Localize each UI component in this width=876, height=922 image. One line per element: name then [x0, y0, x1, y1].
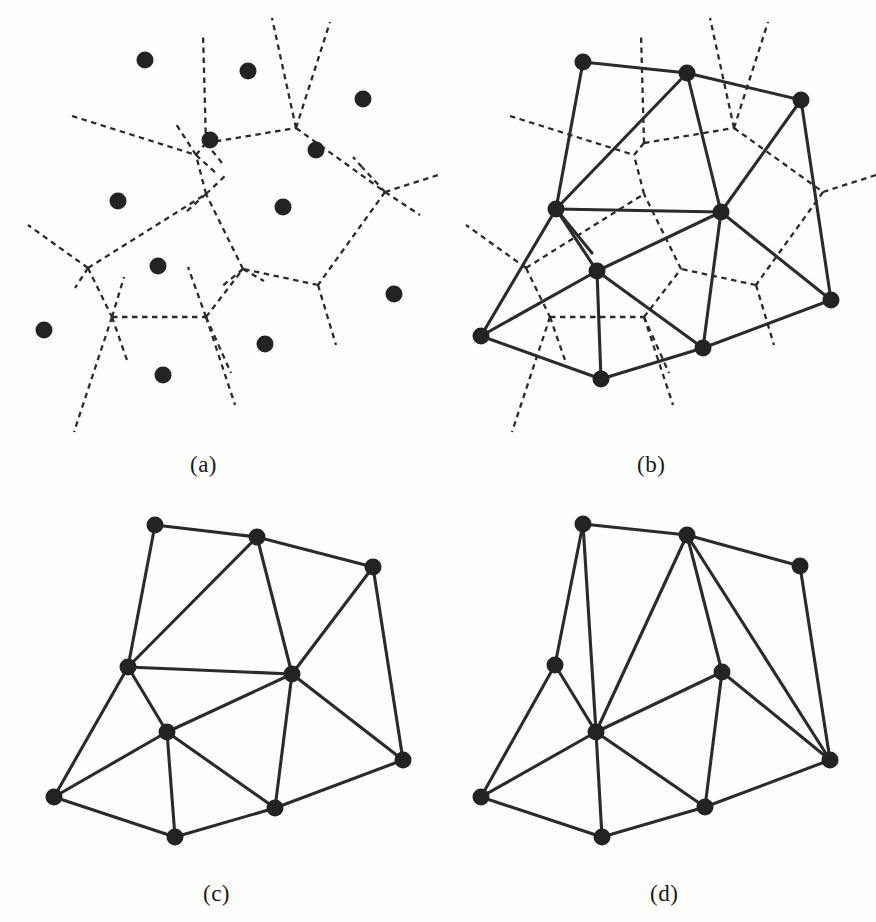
site-point-a-10 [308, 142, 325, 159]
site-point-c-7 [46, 789, 63, 806]
caption-panel-d: (d) [650, 881, 678, 907]
site-point-d-7 [473, 789, 490, 806]
site-point-d-6 [822, 752, 839, 769]
site-point-d-3 [547, 657, 564, 674]
site-point-a-2 [355, 91, 372, 108]
site-point-d-2 [792, 558, 809, 575]
site-point-b-6 [823, 292, 840, 309]
site-point-d-8 [697, 799, 714, 816]
site-point-c-5 [159, 724, 176, 741]
site-point-b-5 [589, 263, 606, 280]
caption-panel-a: (a) [190, 452, 217, 478]
site-point-c-2 [365, 559, 382, 576]
site-point-a-0 [137, 52, 154, 69]
site-point-a-7 [36, 322, 53, 339]
site-point-b-8 [695, 340, 712, 357]
site-point-d-0 [575, 516, 592, 533]
site-point-c-4 [284, 666, 301, 683]
site-point-c-8 [267, 800, 284, 817]
site-point-d-1 [679, 527, 696, 544]
site-point-b-9 [593, 371, 610, 388]
site-point-a-11 [202, 132, 219, 149]
figure-container: (a) (b) (c) (d) [0, 0, 876, 922]
site-point-a-9 [155, 367, 172, 384]
site-point-b-0 [575, 54, 592, 71]
site-point-b-4 [713, 204, 730, 221]
site-point-d-4 [714, 664, 731, 681]
site-point-c-1 [249, 529, 266, 546]
site-point-c-9 [167, 829, 184, 846]
site-point-a-3 [110, 193, 127, 210]
site-point-b-2 [793, 92, 810, 109]
site-point-b-1 [679, 65, 696, 82]
caption-panel-c: (c) [203, 881, 230, 907]
site-point-d-5 [588, 724, 605, 741]
caption-panel-b: (b) [637, 452, 665, 478]
site-point-d-9 [594, 829, 611, 846]
site-point-a-5 [150, 258, 167, 275]
site-point-a-8 [257, 336, 274, 353]
site-point-a-6 [386, 286, 403, 303]
site-point-a-4 [275, 199, 292, 216]
site-point-b-7 [473, 328, 490, 345]
site-point-a-1 [240, 63, 257, 80]
site-point-c-3 [120, 659, 137, 676]
site-point-c-6 [395, 752, 412, 769]
site-point-b-3 [548, 201, 565, 218]
site-point-c-0 [147, 517, 164, 534]
figure-svg [0, 0, 876, 922]
figure-background [0, 0, 876, 922]
